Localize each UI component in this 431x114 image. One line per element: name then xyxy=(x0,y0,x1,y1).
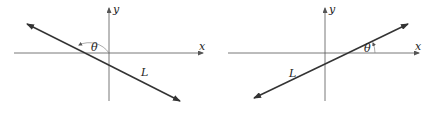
left-angle-label: θ xyxy=(91,42,98,53)
right-y-axis-label: y xyxy=(329,4,335,15)
right-line-l xyxy=(348,24,408,53)
left-figure xyxy=(14,8,203,101)
right-line-label: L xyxy=(289,68,296,79)
left-line-label: L xyxy=(141,67,148,78)
left-line-l-lower xyxy=(85,53,180,101)
left-line-l xyxy=(27,24,85,53)
diagram-canvas xyxy=(0,0,431,114)
left-y-axis-label: y xyxy=(113,4,119,15)
right-figure xyxy=(228,8,419,101)
right-line-l-lower xyxy=(254,53,348,98)
right-angle-arc xyxy=(373,43,375,53)
left-x-axis-label: x xyxy=(199,41,205,52)
right-angle-label: θ xyxy=(364,43,371,54)
right-x-axis-label: x xyxy=(415,41,421,52)
